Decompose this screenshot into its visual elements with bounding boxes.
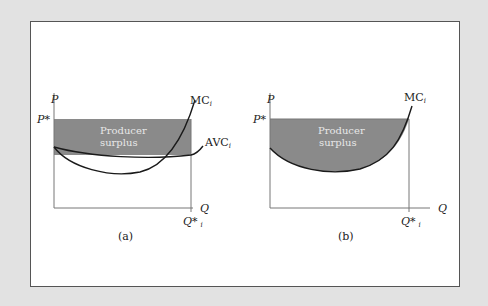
producer-surplus-label-b-line1: Producer xyxy=(318,125,365,136)
producer-surplus-label-a-line2: surplus xyxy=(100,137,138,148)
price-label-b: P* xyxy=(252,113,266,126)
panel-a: P P* Q Q*i MCi AVCi Producer surplus (a) xyxy=(36,93,231,243)
caption-b: (b) xyxy=(338,230,354,243)
x-axis-label-b: Q xyxy=(438,202,447,215)
producer-surplus-diagram: P P* Q Q*i MCi AVCi Producer surplus (a)… xyxy=(0,0,488,306)
avc-label-a: AVCi xyxy=(204,136,231,150)
producer-surplus-label-a-line1: Producer xyxy=(100,125,147,136)
y-axis-label-b: P xyxy=(266,93,275,106)
producer-surplus-label-b-line2: surplus xyxy=(319,137,357,148)
mc-label-b: MCi xyxy=(404,91,426,105)
quantity-label-a: Q*i xyxy=(183,215,203,229)
mc-label-a: MCi xyxy=(190,94,212,108)
quantity-label-b: Q*i xyxy=(401,215,421,229)
x-axis-label-a: Q xyxy=(200,202,209,215)
panel-b: P P* Q Q*i MCi Producer surplus (b) xyxy=(252,91,447,243)
price-label-a: P* xyxy=(36,113,50,126)
y-axis-label-a: P xyxy=(50,93,59,106)
caption-a: (a) xyxy=(118,230,133,243)
